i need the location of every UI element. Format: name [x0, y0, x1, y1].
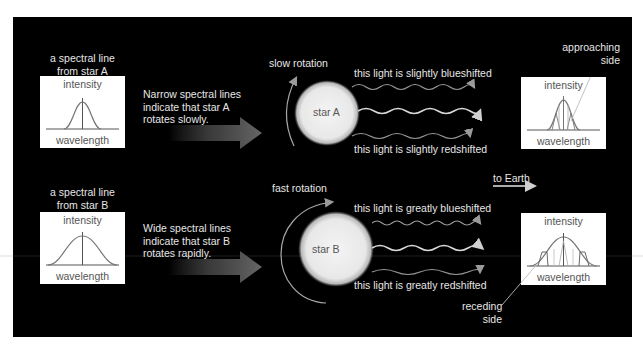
blueshift-label-a: this light is slightly blueshifted	[354, 67, 492, 80]
description-a-line3: rotates slowly.	[143, 113, 241, 126]
wave-b-top	[372, 221, 480, 225]
wave-b-bot	[372, 270, 480, 275]
redshift-label-a: this light is slightly redshifted	[354, 143, 487, 156]
blueshift-label-b: this light is greatly blueshifted	[354, 202, 491, 215]
star-a-label: star A	[313, 106, 340, 119]
caption-star-a: a spectral line from star A	[36, 52, 129, 77]
spectral-line-box-b: intensity wavelength	[40, 212, 125, 284]
rotation-label-b: fast rotation	[272, 182, 327, 195]
x-axis-label: wavelength	[40, 134, 125, 146]
description-b-line1: Wide spectral lines	[143, 222, 231, 235]
caption-star-b-line2: from star B	[36, 199, 129, 212]
wave-a-top	[352, 85, 474, 90]
x-axis-label: wavelength	[40, 270, 125, 282]
spectral-line-box-a: intensity wavelength	[40, 76, 125, 148]
receding-side-callout: receding side	[462, 300, 502, 325]
redshift-label-b: this light is greatly redshifted	[354, 279, 486, 292]
wave-a-mid	[358, 109, 480, 114]
caption-star-b-line1: a spectral line	[36, 186, 129, 199]
star-b-label: star B	[312, 243, 339, 256]
callout-b-line1: receding	[462, 300, 502, 313]
description-a-line1: Narrow spectral lines	[143, 88, 241, 101]
broadened-line-box-a: intensity wavelength	[521, 77, 606, 149]
description-b-line2: indicate that star B	[143, 235, 231, 248]
caption-star-a-line1: a spectral line	[36, 52, 129, 65]
callout-a-line1: approaching	[560, 41, 620, 54]
callout-b-line2: side	[462, 313, 502, 326]
x-axis-label: wavelength	[521, 135, 606, 147]
caption-star-b: a spectral line from star B	[36, 186, 129, 211]
x-axis-label: wavelength	[521, 271, 606, 283]
wave-b-mid	[372, 246, 482, 251]
callout-a-line2: side	[560, 54, 620, 67]
description-star-b: Wide spectral lines indicate that star B…	[143, 222, 231, 260]
rotation-label-a: slow rotation	[269, 57, 328, 70]
approaching-side-callout: approaching side	[560, 41, 620, 66]
description-star-a: Narrow spectral lines indicate that star…	[143, 88, 241, 126]
broadened-line-box-b: intensity wavelength	[521, 213, 606, 285]
description-a-line2: indicate that star A	[143, 101, 241, 114]
wave-a-bot	[352, 134, 470, 139]
to-earth-label: to Earth	[493, 172, 530, 185]
description-b-line3: rotates rapidly.	[143, 247, 231, 260]
